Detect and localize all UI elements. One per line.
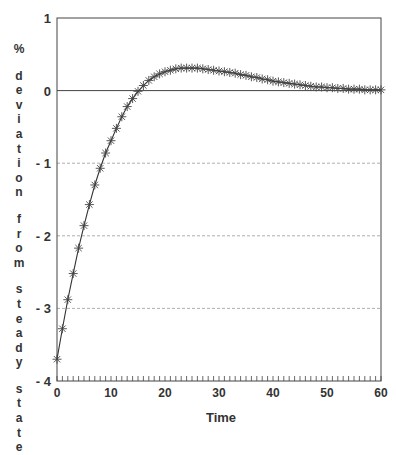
data-series: [53, 64, 386, 364]
y-tick-label: 0: [44, 84, 51, 99]
asterisk-marker: [69, 269, 78, 278]
asterisk-marker: [144, 76, 153, 85]
gridlines: [57, 91, 381, 309]
y-tick-label: - 2: [36, 229, 51, 244]
x-tick-label: 50: [320, 386, 334, 400]
asterisk-marker: [107, 136, 116, 145]
asterisk-marker: [63, 295, 72, 304]
asterisk-marker: [96, 164, 105, 173]
y-tick-label: - 4: [36, 374, 52, 389]
asterisk-marker: [85, 200, 94, 209]
y-label-char: e: [16, 440, 23, 455]
asterisk-marker: [53, 355, 62, 364]
asterisk-marker: [117, 112, 126, 121]
x-tick-label: 30: [212, 386, 226, 400]
y-tick-label: - 1: [36, 156, 51, 171]
y-axis-ticks: 10- 1- 2- 3- 4: [36, 11, 52, 389]
x-axis-label: Time: [206, 410, 236, 425]
y-tick-label: 1: [44, 11, 51, 26]
x-tick-label: 0: [54, 386, 61, 400]
x-tick-label: 20: [158, 386, 172, 400]
asterisk-marker: [101, 149, 110, 158]
asterisk-marker: [377, 85, 386, 94]
asterisk-marker: [128, 94, 137, 103]
series-line: [57, 68, 381, 359]
asterisk-marker: [123, 102, 132, 111]
asterisk-marker: [90, 180, 99, 189]
x-tick-label: 10: [104, 386, 118, 400]
x-tick-label: 40: [266, 386, 280, 400]
asterisk-marker: [112, 124, 121, 133]
asterisk-marker: [74, 244, 83, 253]
asterisk-marker: [58, 324, 67, 333]
x-axis-ticks: 0102030405060: [54, 376, 388, 400]
x-tick-label: 60: [374, 386, 388, 400]
asterisk-marker: [80, 221, 89, 230]
y-tick-label: - 3: [36, 301, 51, 316]
